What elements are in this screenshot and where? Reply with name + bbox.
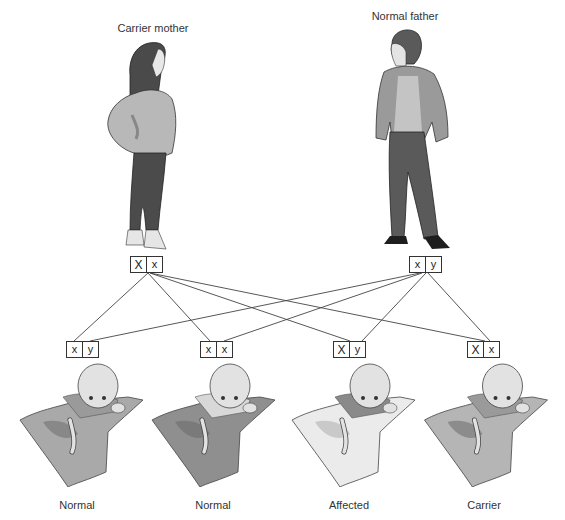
child1-genotype-box: x y <box>66 341 99 358</box>
father-allele-2: y <box>425 257 441 272</box>
child4-genotype-box: X x <box>467 341 500 358</box>
line-mother-child1 <box>74 273 148 341</box>
father-label: Normal father <box>372 10 439 22</box>
father-allele-1: x <box>410 257 425 272</box>
line-mother-child3 <box>150 273 350 341</box>
child4-baby-illustration <box>420 362 555 487</box>
child3-allele-2: y <box>349 342 365 357</box>
child3-genotype-box: X y <box>333 341 366 358</box>
mother-allele-1: X <box>131 257 146 272</box>
mother-genotype-box: X x <box>130 256 163 273</box>
child3-label: Affected <box>329 499 369 511</box>
father-illustration <box>362 22 472 257</box>
line-father-child4 <box>428 273 490 341</box>
child3-allele-1: X <box>334 342 349 357</box>
child1-baby-illustration <box>18 362 148 487</box>
child2-label: Normal <box>195 499 230 511</box>
child3-baby-illustration <box>290 362 420 487</box>
child1-allele-1: x <box>67 342 82 357</box>
child2-allele-2: x <box>216 342 232 357</box>
child4-label: Carrier <box>467 499 501 511</box>
child2-genotype-box: x x <box>200 341 233 358</box>
father-genotype-box: x y <box>409 256 442 273</box>
child1-allele-2: y <box>82 342 98 357</box>
mother-illustration <box>100 35 210 255</box>
mother-allele-2: x <box>146 257 162 272</box>
mother-label: Carrier mother <box>118 22 189 34</box>
child2-allele-1: x <box>201 342 216 357</box>
child1-label: Normal <box>59 499 94 511</box>
child4-allele-2: x <box>483 342 499 357</box>
child4-allele-1: X <box>468 342 483 357</box>
child2-baby-illustration <box>150 362 280 487</box>
